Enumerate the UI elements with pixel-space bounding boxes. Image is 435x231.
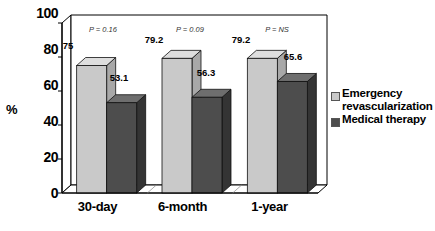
y-tick-100: 100 (18, 5, 58, 21)
y-tick-40: 40 (18, 113, 58, 129)
legend-swatch-emergency-revascularization (331, 92, 340, 101)
x-tick-1-year: 1-year (227, 199, 312, 214)
x-tick-30-day: 30-day (55, 199, 140, 214)
bar-chart: % 0 20 40 60 80 100 30-day 6-month 1-yea… (0, 0, 435, 231)
y-axis-title: % (6, 102, 17, 117)
legend-label-medical-therapy: Medical therapy (342, 113, 435, 126)
legend-swatch-medical-therapy (331, 118, 340, 127)
y-tick-0: 0 (18, 185, 58, 201)
data-label-emergency-30-day: 75 (48, 40, 88, 51)
data-label-medical-6-month: 56.3 (186, 67, 226, 78)
data-label-medical-1-year: 65.6 (273, 51, 313, 62)
data-label-medical-30-day: 53.1 (99, 72, 139, 83)
x-tick-6-month: 6-month (140, 199, 225, 214)
data-label-emergency-6-month: 79.2 (134, 34, 174, 45)
annotation-p-value-1-year: P = NS (252, 25, 302, 34)
y-tick-60: 60 (18, 77, 58, 93)
y-tick-20: 20 (18, 149, 58, 165)
legend-label-emergency-revascularization: Emergency revascularization (342, 87, 435, 112)
annotation-p-value-6-month: P = 0.09 (165, 25, 215, 34)
annotation-p-value-30-day: P = 0.16 (78, 25, 128, 34)
data-label-emergency-1-year: 79.2 (221, 34, 261, 45)
